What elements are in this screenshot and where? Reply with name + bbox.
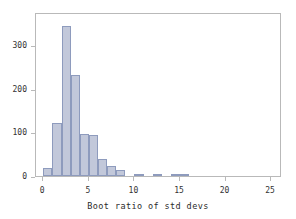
x-tick-mark (179, 177, 180, 181)
histogram-bar (43, 168, 52, 176)
x-tick-label: 20 (220, 187, 230, 195)
plot-frame (35, 13, 281, 177)
x-tick-mark (88, 177, 89, 181)
x-tick-label: 15 (174, 187, 184, 195)
histogram-bar (98, 159, 107, 176)
x-tick-label: 25 (265, 187, 275, 195)
histogram-bar (62, 26, 71, 176)
y-tick-label: 100 (13, 129, 27, 137)
x-tick-label: 5 (85, 187, 90, 195)
histogram-bar (134, 174, 143, 176)
histogram-bar (153, 174, 162, 176)
x-tick-mark (133, 177, 134, 181)
histogram-bar (71, 75, 80, 176)
x-tick-mark (225, 177, 226, 181)
x-tick-mark (42, 177, 43, 181)
histogram-bar (116, 170, 125, 176)
histogram-bar (107, 166, 116, 176)
x-axis-title: Boot ratio of std devs (0, 201, 296, 211)
x-tick-label: 10 (129, 187, 139, 195)
plot-area (36, 14, 280, 176)
histogram-bar (52, 123, 61, 176)
x-axis: Boot ratio of std devs 0510152025 (0, 177, 296, 219)
histogram-bar (171, 174, 180, 176)
histogram-bar (180, 174, 189, 176)
histogram-figure: 0100200300 Boot ratio of std devs 051015… (0, 0, 296, 219)
x-tick-label: 0 (40, 187, 45, 195)
histogram-bar (89, 135, 98, 176)
y-tick-label: 200 (13, 86, 27, 94)
y-tick-label: 300 (13, 42, 27, 50)
x-tick-mark (270, 177, 271, 181)
histogram-bar (80, 134, 89, 176)
